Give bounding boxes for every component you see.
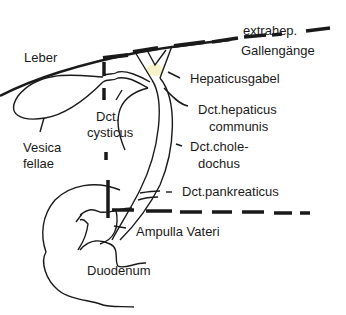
liver-thick-segments <box>103 42 205 58</box>
label-pankreaticus: Dct.pankreaticus <box>182 185 279 199</box>
label-extrahep: extrahep. <box>243 24 297 38</box>
duodenum-outline <box>43 185 134 307</box>
label-gallengaenge: Gallengänge <box>241 44 315 58</box>
label-ampulla-vateri: Ampulla Vateri <box>136 225 220 239</box>
label-choledochus-line1: Dct.chole- <box>190 140 249 154</box>
label-fellae: fellae <box>23 157 54 171</box>
label-cysticus-line1: Dct. <box>96 110 119 124</box>
label-choledochus-line2: dochus <box>198 157 240 171</box>
choledochus-left <box>112 80 159 240</box>
hepaticusgabel-leader <box>168 72 180 78</box>
label-hepaticus-line2: communis <box>209 120 268 134</box>
label-vesica: Vesica <box>23 141 61 155</box>
extrahep-leader <box>306 28 330 31</box>
label-hepaticusgabel: Hepaticusgabel <box>190 72 280 86</box>
horizontal-dashed-line <box>112 210 310 213</box>
cystic-junction-curve <box>118 88 148 150</box>
liver-outline <box>0 40 230 96</box>
vertical-dashed-line <box>104 62 108 218</box>
label-duodenum: Duodenum <box>87 264 151 278</box>
choledochus-right <box>120 78 172 240</box>
gallbladder-outline <box>14 75 103 119</box>
biliary-anatomy-diagram: extrahep. Gallengänge Leber Hepaticusgab… <box>0 0 346 315</box>
label-leber: Leber <box>24 51 57 65</box>
choledochus-leader <box>176 144 182 146</box>
cysticus-leader <box>116 90 122 100</box>
vesica-leader <box>40 118 44 132</box>
label-hepaticus-line1: Dct.hepaticus <box>198 103 277 117</box>
label-cysticus-line2: cysticus <box>87 126 133 140</box>
cystic-duct-lower <box>103 78 148 88</box>
ampulla-vateri-structure <box>76 208 132 250</box>
